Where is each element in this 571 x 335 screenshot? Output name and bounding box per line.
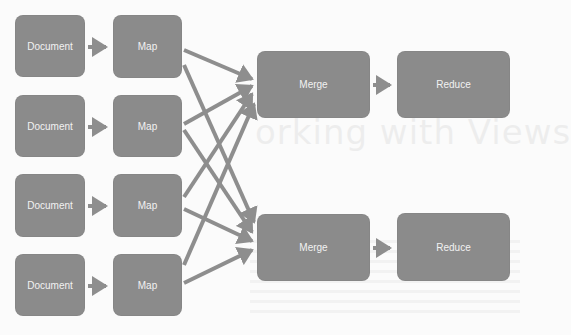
document-node-4: Document: [15, 254, 85, 316]
node-label: Reduce: [436, 79, 470, 90]
node-label: Document: [27, 200, 73, 211]
node-label: Merge: [299, 79, 327, 90]
edge-map1-merge1: [184, 50, 252, 79]
node-label: Map: [138, 280, 157, 291]
node-label: Map: [138, 200, 157, 211]
document-node-2: Document: [15, 95, 85, 157]
node-label: Map: [138, 41, 157, 52]
map-node-4: Map: [113, 254, 182, 316]
reduce-node-1: Reduce: [397, 51, 510, 118]
map-node-1: Map: [113, 15, 182, 78]
node-label: Document: [27, 121, 73, 132]
edge-map4-merge2: [184, 250, 252, 283]
merge-node-2: Merge: [257, 214, 370, 281]
node-label: Document: [27, 41, 73, 52]
map-node-2: Map: [113, 95, 182, 157]
node-label: Document: [27, 280, 73, 291]
node-label: Merge: [299, 242, 327, 253]
merge-node-1: Merge: [257, 51, 370, 118]
map-node-3: Map: [113, 174, 182, 237]
node-label: Reduce: [436, 242, 470, 253]
document-node-1: Document: [15, 15, 85, 77]
reduce-node-2: Reduce: [397, 213, 510, 281]
document-node-3: Document: [15, 174, 85, 237]
node-label: Map: [138, 121, 157, 132]
